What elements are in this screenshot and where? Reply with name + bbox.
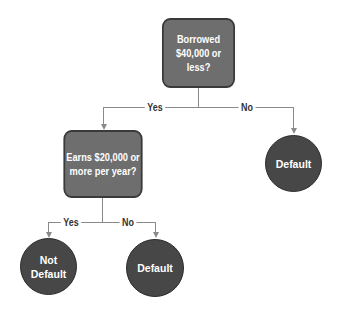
leaf-node-default-sub-no: Default [126,239,184,297]
leaf-node-label: Default [137,261,173,275]
decision-node-borrowed-label: Borrowed $40,000 or less? [164,32,234,74]
leaf-node-not-default: Not Default [20,238,77,295]
leaf-node-default-root-no: Default [265,135,322,192]
arrow-sub-no-icon [153,232,159,238]
connector-root-stem [198,88,199,107]
decision-node-earns: Earns $20,000 or more per year? [63,130,142,198]
edge-label-root-yes: Yes [145,101,165,113]
connector-root-no-drop [293,107,294,129]
connector-root-yes-drop [103,107,104,125]
decision-node-earns-label: Earns $20,000 or more per year? [66,150,139,178]
arrow-root-no-icon [291,128,297,134]
connector-root-branch [103,107,294,108]
connector-sub-stem [102,198,103,222]
decision-node-borrowed: Borrowed $40,000 or less? [162,18,235,88]
edge-label-root-no: No [239,101,256,113]
edge-label-sub-no: No [120,216,137,228]
leaf-node-label: Not Default [31,253,67,281]
leaf-node-label: Default [276,157,312,171]
edge-label-sub-yes: Yes [61,216,81,228]
